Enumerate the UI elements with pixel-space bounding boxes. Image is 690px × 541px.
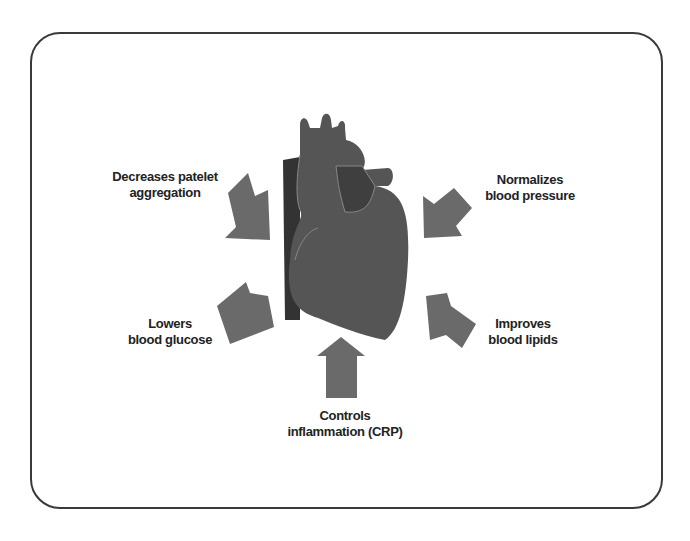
label-line: aggregation xyxy=(100,185,230,201)
label-line: Normalizes xyxy=(480,172,580,188)
label-line: blood lipids xyxy=(478,332,568,348)
label-line: Improves xyxy=(478,316,568,332)
label-line: Decreases patelet xyxy=(100,169,230,185)
arrow-bottom-right-icon xyxy=(426,293,476,348)
label-inflammation: Controls inflammation (CRP) xyxy=(280,408,410,440)
label-line: Lowers xyxy=(120,316,220,332)
label-line: blood pressure xyxy=(480,188,580,204)
label-blood-glucose: Lowers blood glucose xyxy=(120,316,220,348)
label-blood-pressure: Normalizes blood pressure xyxy=(480,172,580,204)
label-line: inflammation (CRP) xyxy=(280,424,410,440)
arrow-top-left-icon xyxy=(225,173,270,240)
arrow-top-right-icon xyxy=(423,188,472,238)
heart-icon xyxy=(289,114,408,340)
label-line: Controls xyxy=(280,408,410,424)
label-line: blood glucose xyxy=(120,332,220,348)
arrow-bottom-icon xyxy=(317,337,365,398)
heart-diagram xyxy=(0,0,690,541)
label-blood-lipids: Improves blood lipids xyxy=(478,316,568,348)
label-platelet-aggregation: Decreases patelet aggregation xyxy=(100,169,230,201)
arrow-bottom-left-icon xyxy=(217,282,274,344)
